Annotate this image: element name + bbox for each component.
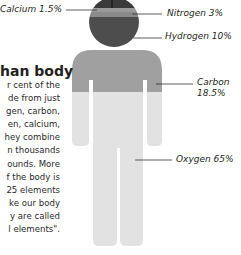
- hydrogen-label: Hydrogen 10%: [165, 31, 232, 42]
- carbon-label: Carbon 18.5%: [197, 77, 229, 99]
- paragraph-line: gen, carbon,: [5, 105, 60, 118]
- paragraph-line: ounds. More: [5, 158, 60, 171]
- carbon-label-name: Carbon: [197, 77, 229, 88]
- carbon-label-value: 18.5%: [197, 88, 229, 99]
- paragraph-line: l elements".: [5, 223, 60, 236]
- calcium-label: Calcium 1.5%: [0, 4, 62, 15]
- paragraph-line: en, calcium,: [5, 118, 60, 131]
- paragraph-line: f the body is: [5, 171, 60, 184]
- nitrogen-label: Nitrogen 3%: [167, 8, 223, 19]
- paragraph-line: hey combine: [5, 131, 60, 144]
- head: [85, 0, 145, 52]
- paragraph-line: ke our body: [5, 197, 60, 210]
- torso: [70, 48, 165, 252]
- description-paragraph: r cent of the de from just gen, carbon, …: [5, 79, 60, 236]
- paragraph-line: n thousands: [5, 144, 60, 157]
- paragraph-line: 25 elements: [5, 184, 60, 197]
- paragraph-line: r cent of the: [5, 79, 60, 92]
- paragraph-line: y are called: [5, 210, 60, 223]
- paragraph-line: de from just: [5, 92, 60, 105]
- oxygen-label: Oxygen 65%: [176, 154, 234, 165]
- section-heading: han body: [0, 63, 73, 79]
